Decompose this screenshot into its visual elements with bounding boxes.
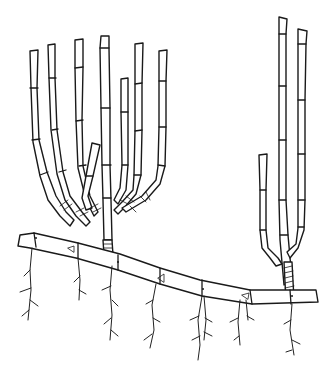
bamboo-rhizome-illustration [0, 0, 334, 370]
right-culm-cluster [259, 17, 307, 302]
rhizome [18, 233, 318, 304]
illustration-canvas [0, 0, 334, 370]
left-culm-cluster [30, 36, 167, 262]
